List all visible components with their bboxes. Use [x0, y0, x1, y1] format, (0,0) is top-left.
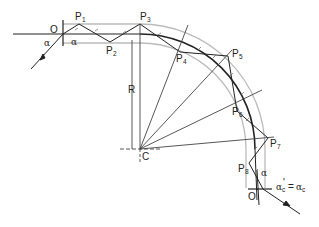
svg-text:O: O — [248, 191, 256, 202]
label-P6: P 6 — [232, 106, 243, 118]
label-C: C — [142, 151, 149, 162]
svg-text:P: P — [176, 53, 183, 64]
label-P5: P 5 — [232, 48, 243, 60]
label-alpha-in: α — [44, 38, 50, 48]
arrow-ticks — [75, 28, 258, 172]
svg-text:2: 2 — [113, 50, 117, 57]
label-P1: P 1 — [75, 11, 86, 23]
label-P3: P 3 — [140, 11, 151, 23]
label-alpha-equation: α c ' = α c — [276, 177, 306, 193]
svg-text:1: 1 — [82, 16, 86, 23]
svg-text:P: P — [75, 11, 82, 22]
label-alpha-exit: α — [261, 168, 267, 178]
svg-text:c: c — [302, 186, 306, 193]
svg-text:P: P — [232, 48, 239, 59]
label-P7: P 7 — [270, 138, 281, 150]
svg-text:P: P — [270, 138, 277, 149]
label-alpha-inner: α — [71, 37, 77, 47]
fiber-bend-diagram: O α α P 1 P 2 P 3 P 4 P 5 P 6 P 7 P 8 R … — [0, 0, 319, 227]
fiber-axis — [13, 34, 257, 200]
svg-text:8: 8 — [245, 168, 249, 175]
svg-text:4: 4 — [183, 58, 187, 65]
svg-text:5: 5 — [239, 53, 243, 60]
radius-lines — [120, 24, 274, 162]
label-R: R — [128, 84, 135, 95]
svg-text:P: P — [238, 163, 245, 174]
svg-text:7: 7 — [277, 143, 281, 150]
svg-text:3: 3 — [147, 16, 151, 23]
label-O: O — [50, 24, 58, 35]
svg-text:P: P — [106, 45, 113, 56]
svg-text:': ' — [256, 187, 258, 198]
svg-text:': ' — [283, 177, 285, 188]
label-P2: P 2 — [106, 45, 117, 57]
svg-text:P: P — [232, 106, 239, 117]
svg-text:P: P — [140, 11, 147, 22]
label-P8: P 8 — [238, 163, 249, 175]
svg-text:=: = — [288, 181, 294, 192]
svg-text:6: 6 — [239, 111, 243, 118]
label-P4: P 4 — [176, 53, 187, 65]
